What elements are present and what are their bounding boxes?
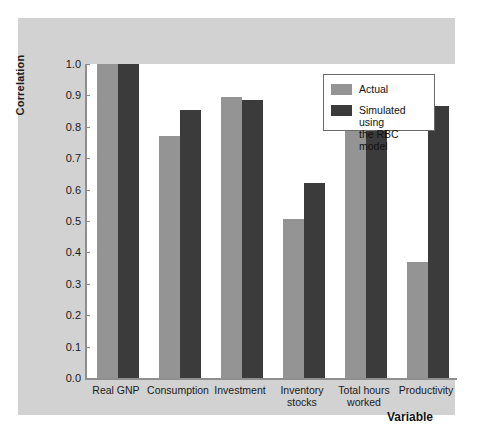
bar — [304, 183, 325, 378]
y-tick-mark — [85, 221, 90, 222]
y-tick-label: 0.6 — [55, 184, 81, 196]
bar — [407, 262, 428, 378]
figure-root: Correlation 1.00.90.80.70.60.50.40.30.20… — [0, 0, 482, 436]
bar — [180, 110, 201, 378]
y-axis-label: Correlation — [14, 40, 26, 130]
y-tick-label: 0.3 — [55, 278, 81, 290]
legend-label: Simulated using the RBC model — [359, 104, 406, 152]
y-tick-label: 0.7 — [55, 152, 81, 164]
legend-label: Actual — [359, 83, 388, 95]
x-tick-label: Productivity — [395, 384, 457, 396]
bar — [428, 106, 449, 378]
y-tick-mark — [85, 315, 90, 316]
y-tick-mark — [85, 95, 90, 96]
x-tick-label: Total hours worked — [333, 384, 395, 408]
y-tick-mark — [85, 64, 90, 65]
x-tick-label: Inventory stocks — [271, 384, 333, 408]
x-tick-label: Investment — [209, 384, 271, 396]
y-tick-label: 0.4 — [55, 246, 81, 258]
figure-panel: Correlation 1.00.90.80.70.60.50.40.30.20… — [18, 18, 455, 415]
y-tick-label: 1.0 — [55, 58, 81, 70]
bar — [97, 64, 118, 378]
y-tick-mark — [85, 252, 90, 253]
y-tick-label: 0.9 — [55, 89, 81, 101]
y-tick-mark — [85, 127, 90, 128]
y-tick-mark — [85, 347, 90, 348]
bar — [242, 100, 263, 378]
x-axis-label: Variable — [387, 410, 433, 424]
legend-swatch-actual — [331, 84, 352, 95]
y-tick-label: 0.8 — [55, 121, 81, 133]
y-tick-mark — [85, 284, 90, 285]
y-axis-tick-labels: 1.00.90.80.70.60.50.40.30.20.10.0 — [51, 64, 81, 378]
y-tick-label: 0.0 — [55, 372, 81, 384]
chart-legend: ActualSimulated using the RBC model — [323, 74, 435, 131]
y-tick-mark — [85, 158, 90, 159]
bar — [159, 136, 180, 378]
y-tick-label: 0.2 — [55, 309, 81, 321]
x-tick-label: Consumption — [147, 384, 209, 396]
bar — [283, 219, 304, 378]
x-tick-label: Real GNP — [85, 384, 147, 396]
y-tick-label: 0.1 — [55, 341, 81, 353]
legend-swatch-simulated — [331, 105, 352, 116]
y-tick-mark — [85, 190, 90, 191]
y-tick-label: 0.5 — [55, 215, 81, 227]
bar — [118, 64, 139, 378]
bar — [221, 97, 242, 378]
